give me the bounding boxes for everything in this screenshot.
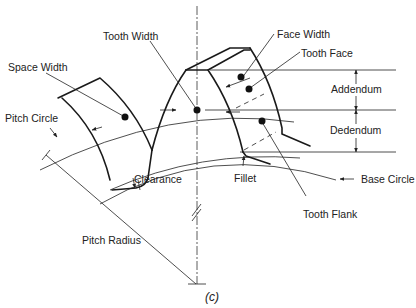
face-width-arrow (226, 78, 250, 87)
leader-lines (46, 34, 306, 196)
label-clearance: Clearance (134, 173, 182, 185)
label-space-width: Space Width (8, 61, 68, 73)
center-line (188, 6, 206, 284)
pitch-circle-pointer (50, 128, 57, 137)
label-pitch-radius: Pitch Radius (82, 234, 141, 246)
figure-caption: (c) (205, 290, 219, 304)
label-tooth-flank: Tooth Flank (303, 208, 358, 220)
pitch-radius-start-tick (42, 150, 50, 160)
pitch-circle-arc (40, 118, 294, 170)
label-fillet: Fillet (234, 172, 256, 184)
label-addendum: Addendum (331, 83, 382, 95)
tooth-face-dot (246, 86, 253, 93)
gear-tooth-diagram: Tooth Width Face Width Tooth Face Space … (0, 0, 416, 308)
label-dedendum: Dedendum (330, 124, 382, 136)
label-pitch-circle: Pitch Circle (5, 112, 58, 124)
label-tooth-width: Tooth Width (103, 30, 159, 42)
tooth-flank-dot (259, 118, 266, 125)
label-tooth-face: Tooth Face (301, 47, 353, 59)
face-width-dot (238, 74, 245, 81)
tooth-width-dot (194, 107, 201, 114)
label-base-circle: Base Circle (361, 173, 415, 185)
space-width-dot (122, 114, 129, 121)
center-tooth (152, 48, 310, 164)
label-face-width: Face Width (277, 28, 330, 40)
tooth-width-arrows (92, 110, 240, 130)
